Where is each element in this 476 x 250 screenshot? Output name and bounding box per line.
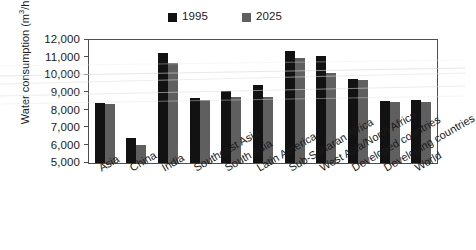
y-axis-title-tail: /ha) <box>19 0 31 10</box>
bar-group <box>152 40 184 163</box>
x-axis-labels: AsiaChinaIndiaSoutheast AsiaSouth AsiaLa… <box>0 164 465 250</box>
y-axis-tick-label: 8,000 <box>51 104 84 116</box>
bar-1995 <box>190 98 200 163</box>
bar-group <box>89 40 121 163</box>
legend-swatch-2025 <box>242 13 251 22</box>
y-axis-tick-label: 7,000 <box>51 122 84 134</box>
bar-group <box>121 40 153 163</box>
legend-label-1995: 1995 <box>182 11 208 23</box>
legend-swatch-1995 <box>168 13 177 22</box>
bar-1995 <box>158 53 168 163</box>
legend-entry-2025: 2025 <box>242 11 282 23</box>
bar-1995 <box>95 103 105 163</box>
legend-label-2025: 2025 <box>256 11 282 23</box>
y-axis-tick-label: 6,000 <box>51 139 84 151</box>
chart-legend: 1995 2025 <box>168 9 338 25</box>
y-axis-tick-label: 10,000 <box>44 69 84 81</box>
y-axis-tick-label: 12,000 <box>44 34 84 46</box>
y-axis-title-exponent: 3 <box>17 10 26 14</box>
bar-group <box>184 40 216 163</box>
legend-entry-1995: 1995 <box>168 11 208 23</box>
y-axis-ticks: 12,00011,00010,0009,0008,0007,0006,0005,… <box>0 39 88 164</box>
bar-2025 <box>168 63 178 163</box>
y-axis-tick-label: 11,000 <box>45 51 84 63</box>
y-axis-tick-label: 9,000 <box>51 86 84 98</box>
